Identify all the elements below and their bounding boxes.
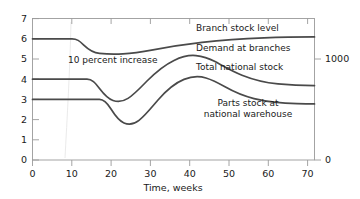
left-axis-ticks (33, 19, 40, 160)
series-label-parts-stock-line1: Parts stock at (217, 98, 279, 108)
y-tick-label-4: 4 (21, 74, 27, 85)
right-axis-label-1000: 1000 (325, 53, 349, 64)
series-label-branch-stock-level: Branch stock level (196, 23, 279, 33)
y-tick-label-5: 5 (21, 53, 27, 64)
x-axis-title: Time, weeks (142, 182, 202, 193)
x-tick-label-30: 30 (144, 168, 156, 179)
series-label-parts-stock-line2: national warehouse (204, 109, 293, 119)
x-tick-label-70: 70 (302, 168, 314, 179)
y-tick-label-0: 0 (21, 154, 27, 165)
y-tick-label-7: 7 (21, 13, 27, 24)
x-tick-label-60: 60 (262, 168, 274, 179)
y-tick-label-3: 3 (21, 94, 27, 105)
stock-levels-line-chart: 7 6 5 4 3 2 1 0 0 10 (0, 0, 360, 199)
chart-container: 7 6 5 4 3 2 1 0 0 10 (0, 0, 360, 199)
series-label-demand-at-branches: Demand at branches (196, 43, 291, 53)
x-tick-label-0: 0 (29, 168, 35, 179)
x-axis-ticks (33, 160, 308, 166)
right-axis-ticks (315, 59, 322, 160)
background-artifact-line (65, 22, 71, 158)
x-tick-label-20: 20 (105, 168, 117, 179)
x-tick-label-50: 50 (223, 168, 235, 179)
y-tick-label-1: 1 (21, 134, 27, 145)
right-axis-label-0: 0 (325, 154, 331, 165)
x-tick-label-10: 10 (66, 168, 78, 179)
y-tick-label-6: 6 (21, 33, 27, 44)
y-tick-label-2: 2 (21, 114, 27, 125)
x-tick-label-40: 40 (184, 168, 196, 179)
series-label-total-national-stock: Total national stock (195, 62, 284, 72)
annotation-10-percent-increase: 10 percent increase (68, 55, 158, 65)
